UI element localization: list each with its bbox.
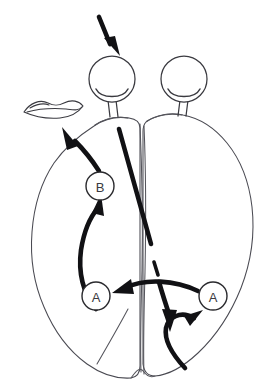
eye-left-globe [89, 56, 135, 102]
eye-right-globe [161, 56, 207, 102]
b-to-mouth-head [62, 127, 78, 150]
input-stimulus-arrow [99, 17, 120, 56]
node-a-right[interactable]: A [199, 282, 227, 310]
right-hemisphere-outline [143, 114, 253, 376]
node-b[interactable]: B [86, 172, 114, 200]
left-hemisphere-outline [32, 117, 141, 378]
eye-left-stalk-b [116, 100, 118, 117]
eye-left-stalk-a [108, 100, 110, 117]
node-a-right-label: A [209, 290, 218, 305]
brain-pathway-diagram: B A A [0, 0, 276, 389]
input-arrow-head [104, 36, 120, 56]
mouth-lips [24, 101, 83, 118]
node-a-left-label: A [92, 290, 101, 305]
eye-left [89, 56, 135, 117]
node-b-label: B [96, 180, 105, 195]
eye-right-stalk-a [178, 100, 180, 116]
eye-right [161, 56, 207, 116]
node-a-left[interactable]: A [82, 282, 110, 310]
brain-diagram-figure: B A A [0, 0, 276, 389]
